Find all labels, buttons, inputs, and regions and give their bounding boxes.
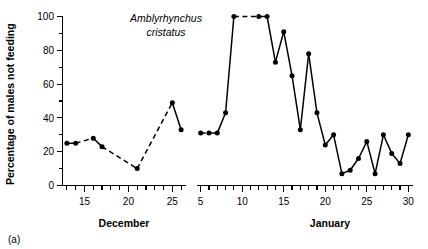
- y-tick-label: 100: [37, 11, 54, 22]
- x-tick-label: 15: [79, 196, 91, 207]
- data-point: [215, 131, 220, 136]
- x-tick-label: 30: [403, 196, 415, 207]
- data-point: [170, 100, 175, 105]
- december-axis-title: December: [99, 217, 150, 229]
- december-series-lines: [67, 103, 181, 169]
- y-tick-label: 0: [48, 180, 54, 191]
- series-segment-solid: [400, 135, 408, 164]
- series-segment-solid: [275, 32, 283, 62]
- y-tick-label: 60: [43, 79, 55, 90]
- data-point: [100, 144, 105, 149]
- y-tick-label: 40: [43, 113, 55, 124]
- data-point: [206, 131, 211, 136]
- panel-december: 152025 December: [63, 100, 186, 229]
- data-point: [306, 51, 311, 56]
- x-tick-label: 10: [237, 196, 249, 207]
- series-segment-solid: [226, 17, 234, 113]
- data-point: [281, 29, 286, 34]
- data-point: [198, 131, 203, 136]
- data-point: [398, 161, 403, 166]
- data-point: [373, 171, 378, 176]
- december-x-axis-ticks: [67, 186, 181, 193]
- x-tick-label: 20: [320, 196, 332, 207]
- series-segment-solid: [292, 76, 300, 130]
- january-x-axis-tick-labels: 51015202530: [198, 196, 414, 207]
- data-point: [314, 110, 319, 115]
- series-segment-dashed: [76, 138, 94, 143]
- series-segment-solid: [334, 135, 342, 174]
- y-axis: 020406080100 Percentage of males not fee…: [4, 11, 63, 191]
- y-tick-label: 80: [43, 45, 55, 56]
- data-point: [135, 166, 140, 171]
- y-axis-title: Percentage of males not feeding: [4, 23, 16, 185]
- data-point: [273, 60, 278, 65]
- species-name-epithet: cristatus: [146, 26, 186, 38]
- series-segment-solid: [300, 54, 308, 130]
- series-segment-solid: [309, 54, 317, 113]
- panel-caption: (a): [8, 234, 20, 245]
- data-point: [406, 132, 411, 137]
- data-point: [231, 14, 236, 19]
- x-tick-label: 5: [198, 196, 204, 207]
- series-segment-solid: [217, 113, 225, 133]
- data-point: [91, 136, 96, 141]
- series-segment-dashed: [102, 147, 137, 169]
- december-x-axis-tick-labels: 152025: [79, 196, 178, 207]
- series-segment-solid: [367, 142, 375, 174]
- figure-panel-a: 020406080100 Percentage of males not fee…: [0, 0, 428, 249]
- data-point: [364, 139, 369, 144]
- january-series-lines: [201, 17, 409, 174]
- data-point: [265, 14, 270, 19]
- data-point: [256, 14, 261, 19]
- line-chart: 020406080100 Percentage of males not fee…: [0, 0, 428, 249]
- data-point: [339, 171, 344, 176]
- species-name-genus: Amblyrhynchus: [129, 12, 203, 24]
- january-x-axis-ticks: [201, 186, 409, 193]
- data-point: [223, 110, 228, 115]
- series-segment-solid: [317, 113, 325, 145]
- data-point: [298, 127, 303, 132]
- data-point: [389, 151, 394, 156]
- series-segment-solid: [267, 17, 275, 63]
- species-annotation: Amblyrhynchus cristatus: [129, 12, 203, 38]
- series-segment-solid: [172, 103, 181, 130]
- x-tick-label: 25: [361, 196, 373, 207]
- x-tick-label: 25: [167, 196, 179, 207]
- y-axis-tick-labels: 020406080100: [37, 11, 54, 191]
- data-point: [323, 142, 328, 147]
- data-point: [73, 141, 78, 146]
- series-segment-solid: [383, 135, 391, 154]
- january-axis-title: January: [310, 217, 350, 229]
- data-point: [64, 141, 69, 146]
- x-tick-label: 20: [123, 196, 135, 207]
- series-segment-solid: [284, 32, 292, 76]
- data-point: [356, 156, 361, 161]
- y-axis-ticks: [57, 17, 63, 186]
- data-point: [348, 168, 353, 173]
- data-point: [381, 132, 386, 137]
- data-point: [331, 132, 336, 137]
- x-tick-label: 15: [278, 196, 290, 207]
- series-segment-solid: [375, 135, 383, 174]
- data-point: [179, 127, 184, 132]
- series-segment-dashed: [137, 103, 172, 169]
- data-point: [290, 73, 295, 78]
- panel-january: 51015202530 January: [197, 14, 415, 229]
- y-tick-label: 20: [43, 146, 55, 157]
- series-segment-solid: [359, 142, 367, 159]
